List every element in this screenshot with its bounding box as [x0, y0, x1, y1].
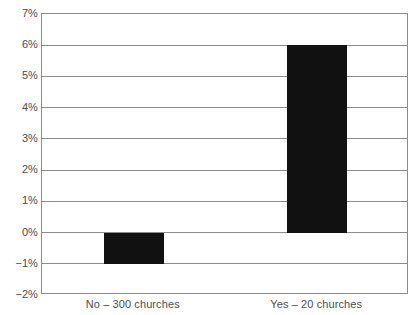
y-tick-label: 7%: [4, 8, 38, 19]
x-tick-label: No – 300 churches: [41, 296, 225, 312]
gridline: [42, 263, 407, 264]
y-tick-label: 2%: [4, 164, 38, 175]
y-tick-label: −2%: [4, 289, 38, 300]
bar: [287, 45, 347, 232]
plot-area: [41, 13, 408, 294]
y-tick-label: 0%: [4, 226, 38, 237]
gridline: [42, 232, 407, 233]
y-tick-label: 5%: [4, 70, 38, 81]
x-axis: No – 300 churchesYes – 20 churches: [41, 296, 408, 315]
y-axis: 7%6%5%4%3%2%1%0%−1%−2%: [0, 0, 38, 315]
gridline: [42, 201, 407, 202]
gridline: [42, 170, 407, 171]
y-tick-label: 6%: [4, 39, 38, 50]
y-tick-label: 1%: [4, 195, 38, 206]
gridline: [42, 138, 407, 139]
gridline: [42, 76, 407, 77]
y-tick-label: 3%: [4, 132, 38, 143]
x-tick-label: Yes – 20 churches: [225, 296, 409, 312]
y-tick-label: −1%: [4, 257, 38, 268]
bar: [104, 233, 164, 264]
y-tick-label: 4%: [4, 101, 38, 112]
gridline: [42, 45, 407, 46]
bar-chart: 7%6%5%4%3%2%1%0%−1%−2% No – 300 churches…: [0, 0, 417, 315]
gridline: [42, 107, 407, 108]
